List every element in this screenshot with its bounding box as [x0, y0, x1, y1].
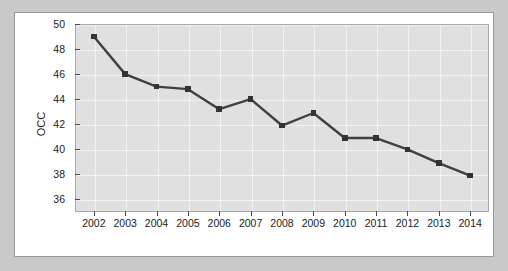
y-tick-mark — [75, 24, 80, 25]
x-tick-mark — [188, 211, 189, 216]
y-tick-mark — [75, 124, 80, 125]
data-point-marker: 2003: 46 — [122, 71, 128, 77]
x-tick-mark — [376, 211, 377, 216]
y-tick-label: 36 — [31, 193, 65, 205]
y-tick-mark — [75, 99, 80, 100]
y-tick-label: 50 — [31, 18, 65, 30]
x-tick-mark — [345, 211, 346, 216]
x-tick-mark — [313, 211, 314, 216]
x-tick-label: 2011 — [365, 217, 388, 229]
y-tick-label: 38 — [31, 168, 65, 180]
data-point-marker: 2014: 37.9 — [467, 173, 473, 179]
data-point-marker: 2006: 43.2 — [216, 106, 222, 112]
data-point-marker: 2011: 40.9 — [373, 135, 379, 141]
y-tick-mark — [75, 174, 80, 175]
data-point-marker: 2005: 44.8 — [185, 86, 191, 92]
x-tick-mark — [282, 211, 283, 216]
x-tick-label: 2002 — [82, 217, 105, 229]
x-tick-label: 2007 — [239, 217, 262, 229]
data-point-marker: 2002: 49 — [91, 34, 97, 40]
data-point-marker: 2008: 41.9 — [279, 123, 285, 129]
series-line-occ — [94, 37, 470, 176]
y-tick-label: 44 — [31, 93, 65, 105]
x-tick-label: 2005 — [176, 217, 199, 229]
x-tick-label: 2013 — [427, 217, 450, 229]
x-tick-label: 2014 — [458, 217, 481, 229]
data-point-marker: 2007: 44 — [248, 96, 254, 102]
y-tick-mark — [75, 199, 80, 200]
x-tick-mark — [407, 211, 408, 216]
x-tick-label: 2008 — [270, 217, 293, 229]
data-point-marker: 2009: 42.9 — [311, 110, 317, 116]
x-tick-label: 2009 — [302, 217, 325, 229]
x-tick-mark — [219, 211, 220, 216]
data-point-marker: 2010: 40.9 — [342, 135, 348, 141]
x-tick-label: 2012 — [396, 217, 419, 229]
x-tick-label: 2004 — [145, 217, 168, 229]
figure-card: OCC 2002: 492003: 462004: 452005: 44.820… — [14, 12, 494, 257]
x-tick-mark — [125, 211, 126, 216]
data-point-marker: 2004: 45 — [154, 84, 160, 90]
x-tick-mark — [470, 211, 471, 216]
x-tick-label: 2003 — [113, 217, 136, 229]
line-chart: OCC 2002: 492003: 462004: 452005: 44.820… — [15, 13, 493, 256]
data-point-marker: 2013: 38.9 — [436, 160, 442, 166]
x-tick-mark — [251, 211, 252, 216]
y-tick-label: 48 — [31, 43, 65, 55]
data-point-marker: 2012: 40 — [405, 147, 411, 153]
y-tick-mark — [75, 74, 80, 75]
x-tick-label: 2006 — [208, 217, 231, 229]
y-tick-mark — [75, 149, 80, 150]
x-tick-label: 2010 — [333, 217, 356, 229]
x-tick-mark — [94, 211, 95, 216]
y-tick-label: 42 — [31, 118, 65, 130]
y-tick-mark — [75, 49, 80, 50]
y-tick-label: 40 — [31, 143, 65, 155]
x-tick-mark — [439, 211, 440, 216]
y-tick-label: 46 — [31, 68, 65, 80]
x-tick-mark — [157, 211, 158, 216]
